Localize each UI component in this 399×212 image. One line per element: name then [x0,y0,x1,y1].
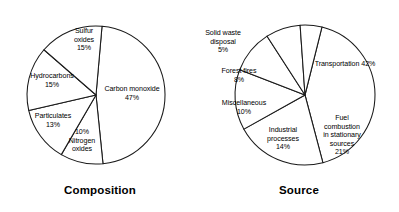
pie-slice-label: Solid waste disposal 5% [195,29,251,55]
composition-chart-panel: Carbon monoxide 47%10% Nitrogen oxidesPa… [0,0,200,212]
source-chart-panel: Transportation 42%Fuel combustion in sta… [199,0,399,212]
pie-slice-label: Transportation 42% [301,60,389,69]
pie-chart-figure: Carbon monoxide 47%10% Nitrogen oxidesPa… [0,0,399,212]
pie-slice-label: Carbon monoxide 47% [96,85,168,102]
pie-slice-label: Industrial processes 14% [257,126,309,152]
pie-slice-label: 10% Nitrogen oxides [59,128,105,154]
pie-slice-label: Hydrocarbons 15% [20,72,84,89]
pie-slice-label: Sulfur oxides 15% [62,27,106,53]
pie-slice-label: Forest fires 8% [210,67,268,84]
pie-slice-label: Fuel combustion in stationary sources 21… [312,114,372,157]
pie-slice-label: Miscellaneous 10% [211,99,277,116]
composition-chart-title: Composition [0,184,200,196]
source-chart-title: Source [199,184,399,196]
pie-slice-label: Particulates 13% [22,112,84,129]
